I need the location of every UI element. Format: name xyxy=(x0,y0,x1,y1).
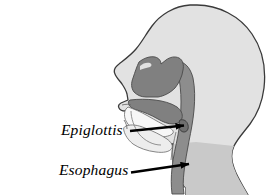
label-esophagus: Esophagus xyxy=(59,162,128,178)
label-epiglottis: Epiglottis xyxy=(61,122,123,138)
anatomy-figure: Epiglottis Esophagus xyxy=(0,0,274,195)
anatomy-diagram-svg xyxy=(0,0,274,195)
